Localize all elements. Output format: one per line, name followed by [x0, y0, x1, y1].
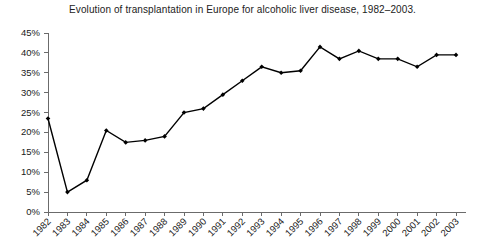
y-axis-tick-label: 0%	[26, 206, 40, 217]
data-point-marker	[143, 138, 148, 143]
x-axis-tick-label: 1991	[205, 216, 228, 239]
y-axis-tick-label: 45%	[21, 27, 41, 38]
y-axis-tick-label: 40%	[21, 47, 41, 58]
x-axis-tick-label: 1983	[50, 216, 73, 239]
x-axis-tick-label: 1998	[341, 216, 364, 239]
x-axis-tick-label: 1988	[147, 216, 170, 239]
x-axis-tick-label: 2001	[399, 216, 422, 239]
data-series	[46, 45, 459, 195]
chart-container: Evolution of transplantation in Europe f…	[0, 0, 485, 252]
data-point-marker	[46, 116, 51, 121]
data-point-marker	[376, 57, 381, 62]
y-axis-tick-label: 15%	[21, 146, 41, 157]
y-axis-tick-label: 30%	[21, 87, 41, 98]
x-axis-tick-label: 1996	[302, 216, 325, 239]
x-axis-tick-label: 1994	[263, 216, 286, 239]
data-point-marker	[357, 49, 362, 54]
x-axis-tick-label: 1985	[88, 216, 111, 239]
x-axis-tick-label: 2002	[419, 216, 442, 239]
x-axis-tick-label: 1989	[166, 216, 189, 239]
x-axis-tick-label: 1995	[283, 216, 306, 239]
x-axis-tick-label: 2000	[380, 216, 403, 239]
x-axis-tick-label: 1984	[69, 216, 92, 239]
y-axis-tick-label: 20%	[21, 126, 41, 137]
x-axis-tick-label: 1993	[244, 216, 267, 239]
y-axis-tick-label: 25%	[21, 107, 41, 118]
data-point-marker	[279, 70, 284, 75]
x-axis-tick-label: 1997	[322, 216, 345, 239]
y-axis-tick-label: 5%	[26, 186, 40, 197]
y-axis-tick-label: 10%	[21, 166, 41, 177]
x-axis-tick-label: 1987	[127, 216, 150, 239]
x-axis-tick-label: 1999	[360, 216, 383, 239]
x-axis: 1982198319841985198619871988198919901991…	[30, 212, 466, 238]
data-point-marker	[454, 53, 459, 58]
data-point-marker	[395, 57, 400, 62]
line-chart-plot: 0%5%10%15%20%25%30%35%40%45% 19821983198…	[0, 0, 485, 252]
x-axis-tick-label: 1982	[30, 216, 53, 239]
x-axis-tick-label: 1986	[108, 216, 131, 239]
y-axis: 0%5%10%15%20%25%30%35%40%45%	[21, 27, 48, 217]
x-axis-tick-label: 1992	[224, 216, 247, 239]
series-line	[48, 47, 456, 192]
x-axis-tick-label: 2003	[438, 216, 461, 239]
y-axis-tick-label: 35%	[21, 67, 41, 78]
x-axis-tick-label: 1990	[186, 216, 209, 239]
